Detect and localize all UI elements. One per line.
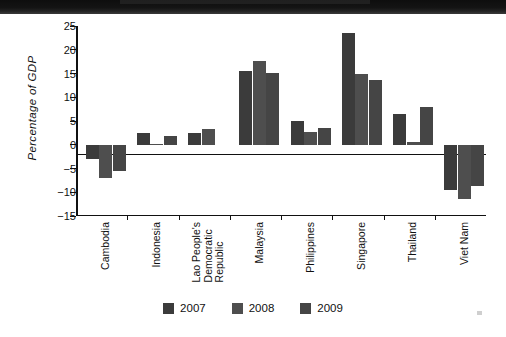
x-category-label-line: Malaysia	[254, 222, 266, 263]
x-category-label-line: Indonesia	[151, 222, 163, 268]
x-category-label-line: Philippines	[305, 222, 317, 273]
scan-artifact-band	[0, 0, 506, 14]
plot-area	[76, 26, 486, 216]
bar-2008-thailand	[407, 142, 420, 145]
x-category-label-line: Cambodia	[100, 222, 112, 270]
x-tick-mark	[435, 215, 436, 220]
bar-2009-singapore	[369, 80, 382, 145]
x-category-label: Viet Nam	[459, 222, 471, 265]
bar-2009-philippines	[318, 128, 331, 145]
legend-swatch-icon	[300, 303, 311, 314]
x-tick-mark	[384, 215, 385, 220]
bar-2009-thailand	[420, 107, 433, 145]
legend-swatch-icon	[163, 303, 174, 314]
x-tick-mark	[281, 215, 282, 220]
legend-item-2008[interactable]: 2008	[232, 302, 275, 314]
bar-2007-cambodia	[86, 145, 99, 159]
bar-2008-lao-people-s-democratic-republic	[202, 129, 215, 145]
bar-2008-indonesia	[150, 144, 163, 145]
x-category-label: Cambodia	[100, 222, 112, 270]
bar-2007-thailand	[393, 114, 406, 145]
chart-legend: 200720082009	[0, 302, 506, 314]
x-category-label-line: Thailand	[407, 222, 419, 262]
legend-label: 2008	[249, 302, 275, 314]
legend-item-2009[interactable]: 2009	[300, 302, 343, 314]
x-tick-mark	[332, 215, 333, 220]
legend-label: 2009	[317, 302, 343, 314]
x-tick-mark	[127, 215, 128, 220]
chart-figure: Percentage of GDP 2520151050−5−10−15 Cam…	[0, 14, 506, 337]
bar-2007-viet-nam	[444, 145, 457, 191]
bar-2007-indonesia	[137, 133, 150, 144]
legend-label: 2007	[180, 302, 206, 314]
x-tick-mark	[230, 215, 231, 220]
x-category-label: Singapore	[356, 222, 368, 270]
bar-2009-cambodia	[113, 145, 126, 171]
legend-swatch-icon	[232, 303, 243, 314]
x-category-label: Thailand	[407, 222, 419, 262]
bar-2009-viet-nam	[471, 145, 484, 186]
bar-2009-indonesia	[164, 136, 177, 145]
bar-2008-singapore	[355, 74, 368, 145]
bar-2008-viet-nam	[458, 145, 471, 200]
x-category-label-line: Lao People's	[191, 222, 203, 282]
x-tick-mark	[179, 215, 180, 220]
bar-2007-lao-people-s-democratic-republic	[188, 133, 201, 145]
bar-2008-cambodia	[99, 145, 112, 178]
bar-2007-philippines	[291, 121, 304, 145]
scan-speck	[477, 311, 482, 315]
bar-2008-philippines	[304, 132, 317, 144]
x-category-label: Malaysia	[254, 222, 266, 263]
x-category-label-line: Singapore	[356, 222, 368, 270]
bar-2008-malaysia	[253, 61, 266, 145]
y-axis-ticks: 2520151050−5−10−15	[0, 26, 76, 216]
bar-2007-malaysia	[239, 71, 252, 145]
x-category-label: Indonesia	[151, 222, 163, 268]
x-category-label-line: Viet Nam	[459, 222, 471, 265]
x-category-label: Lao People'sDemocraticRepublic	[191, 222, 226, 282]
bar-2007-singapore	[342, 33, 355, 145]
bar-2009-malaysia	[266, 73, 279, 145]
legend-item-2007[interactable]: 2007	[163, 302, 206, 314]
x-category-label-line: Republic	[214, 222, 226, 282]
x-category-label: Philippines	[305, 222, 317, 273]
